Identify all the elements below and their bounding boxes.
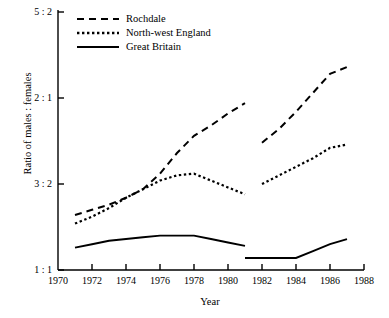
legend-label: Great Britain [126, 41, 181, 53]
y-axis-ticks [58, 12, 64, 270]
x-axis-tick-label: 1972 [75, 275, 109, 286]
legend-item-great-britain: Great Britain [76, 40, 256, 54]
y-axis-tick-label: 2 : 1 [18, 92, 52, 103]
y-axis-title: Ratio of males : females [22, 49, 33, 199]
x-axis-tick-label: 1982 [245, 275, 279, 286]
legend-label: Rochdale [126, 13, 166, 25]
x-axis-tick-label: 1984 [279, 275, 313, 286]
series-line [262, 67, 347, 143]
x-axis-tick-label: 1976 [143, 275, 177, 286]
series-line [262, 144, 347, 184]
series-line [75, 236, 245, 248]
series-line [75, 174, 245, 224]
series-line [245, 239, 347, 258]
chart-legend: Rochdale North-west England Great Britai… [76, 12, 256, 54]
dashed-line-key-icon [76, 13, 120, 25]
y-axis-tick-label: 3 : 2 [18, 178, 52, 189]
dotted-line-key-icon [76, 27, 120, 39]
line-chart: Ratio of males : females Year 1 : 13 : 2… [0, 0, 389, 318]
x-axis-title: Year [155, 296, 265, 307]
solid-line-key-icon [76, 41, 120, 53]
legend-label: North-west England [126, 27, 211, 39]
x-axis-ticks [92, 264, 364, 270]
data-series-layer [75, 67, 347, 258]
x-axis-tick-label: 1988 [347, 275, 381, 286]
y-axis-tick-label: 5 : 2 [18, 6, 52, 17]
x-axis-tick-label: 1980 [211, 275, 245, 286]
legend-item-north-west-england: North-west England [76, 26, 256, 40]
series-line [75, 103, 245, 215]
x-axis-tick-label: 1974 [109, 275, 143, 286]
x-axis-tick-label: 1970 [41, 275, 75, 286]
x-axis-tick-label: 1986 [313, 275, 347, 286]
x-axis-tick-label: 1978 [177, 275, 211, 286]
legend-item-rochdale: Rochdale [76, 12, 256, 26]
y-axis-tick-label: 1 : 1 [18, 264, 52, 275]
